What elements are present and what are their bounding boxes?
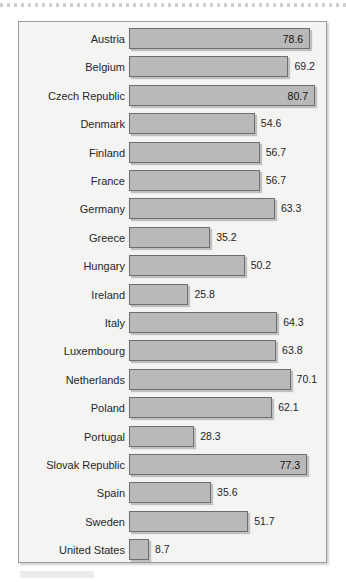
bar-row: Austria78.6 (19, 28, 326, 50)
bar-value-label: 69.2 (288, 56, 314, 77)
bar-chart-plot-area: Austria78.6Belgium69.2Czech Republic80.7… (19, 22, 326, 562)
bar-wrapper: 78.6 (129, 28, 310, 50)
bar (129, 56, 288, 77)
bar-category-label: Luxembourg (19, 340, 125, 362)
bar (129, 482, 211, 503)
bar-wrapper: 56.7 (129, 142, 260, 164)
bar-row: Hungary50.2 (19, 255, 326, 277)
bar-value-label: 56.7 (260, 142, 286, 163)
bar-value-label: 56.7 (260, 170, 286, 191)
bar-category-label: Hungary (19, 255, 125, 277)
chart-panel: Austria78.6Belgium69.2Czech Republic80.7… (18, 21, 327, 563)
bar-category-label: Greece (19, 227, 125, 249)
bar (129, 284, 188, 305)
bar-row: Netherlands70.1 (19, 369, 326, 391)
bar-value-label: 62.1 (272, 397, 298, 418)
bar-row: Germany63.3 (19, 198, 326, 220)
bar-wrapper: 54.6 (129, 113, 255, 135)
bar-row: Finland56.7 (19, 142, 326, 164)
bar-value-label: 8.7 (149, 539, 170, 560)
bar-category-label: Italy (19, 312, 125, 334)
bar (129, 198, 275, 219)
bar (129, 227, 210, 248)
bar-wrapper: 70.1 (129, 369, 291, 391)
bar (129, 539, 149, 560)
bar-wrapper: 64.3 (129, 312, 277, 334)
bar-row: Ireland25.8 (19, 284, 326, 306)
bar-category-label: Germany (19, 198, 125, 220)
bar-value-label: 77.3 (280, 455, 300, 476)
bar-row: Portugal28.3 (19, 426, 326, 448)
bar-value-label: 25.8 (188, 284, 214, 305)
bar-row: Poland62.1 (19, 397, 326, 419)
page-top-dashed-rule (0, 3, 346, 7)
bar-category-label: Slovak Republic (19, 454, 125, 476)
caption-placeholder-block (20, 571, 94, 578)
bar (129, 113, 255, 134)
bar-category-label: Denmark (19, 113, 125, 135)
bar-category-label: United States (19, 539, 125, 561)
bar-wrapper: 62.1 (129, 397, 272, 419)
bar-row: Czech Republic80.7 (19, 85, 326, 107)
bar-wrapper: 35.6 (129, 482, 211, 504)
bar (129, 170, 260, 191)
bar-row: United States8.7 (19, 539, 326, 561)
bar-wrapper: 8.7 (129, 539, 149, 561)
bar (129, 397, 272, 418)
bar-value-label: 35.2 (210, 227, 236, 248)
bar-wrapper: 25.8 (129, 284, 188, 306)
bar-wrapper: 56.7 (129, 170, 260, 192)
bar-value-label: 35.6 (211, 482, 237, 503)
bar-wrapper: 28.3 (129, 426, 194, 448)
bar-row: France56.7 (19, 170, 326, 192)
bar-wrapper: 69.2 (129, 56, 288, 78)
bar: 80.7 (129, 85, 315, 106)
bar-wrapper: 63.8 (129, 340, 276, 362)
bar-value-label: 51.7 (248, 511, 274, 532)
bar-category-label: Austria (19, 28, 125, 50)
bar-wrapper: 35.2 (129, 227, 210, 249)
bar-category-label: Ireland (19, 284, 125, 306)
bar-value-label: 63.3 (275, 198, 301, 219)
bar-category-label: France (19, 170, 125, 192)
bar-category-label: Portugal (19, 426, 125, 448)
bar-value-label: 78.6 (283, 29, 303, 50)
bar-wrapper: 50.2 (129, 255, 245, 277)
bar (129, 142, 260, 163)
bar-row: Denmark54.6 (19, 113, 326, 135)
bar-value-label: 54.6 (255, 113, 281, 134)
bar-value-label: 63.8 (276, 340, 302, 361)
bar (129, 511, 248, 532)
bar-category-label: Netherlands (19, 369, 125, 391)
bar (129, 426, 194, 447)
bar-category-label: Spain (19, 482, 125, 504)
bar-row: Spain35.6 (19, 482, 326, 504)
bar-category-label: Belgium (19, 56, 125, 78)
bar (129, 340, 276, 361)
bar-row: Belgium69.2 (19, 56, 326, 78)
bar-wrapper: 80.7 (129, 85, 315, 107)
bar-row: Italy64.3 (19, 312, 326, 334)
bar-category-label: Sweden (19, 511, 125, 533)
bar-row: Greece35.2 (19, 227, 326, 249)
bar-value-label: 80.7 (288, 86, 308, 107)
bar: 77.3 (129, 454, 307, 475)
bar: 78.6 (129, 28, 310, 49)
bar-category-label: Czech Republic (19, 85, 125, 107)
bar-value-label: 28.3 (194, 426, 220, 447)
bar-value-label: 50.2 (245, 255, 271, 276)
bar-category-label: Poland (19, 397, 125, 419)
bar-wrapper: 51.7 (129, 511, 248, 533)
bar-category-label: Finland (19, 142, 125, 164)
bar-value-label: 64.3 (277, 312, 303, 333)
bar-row: Slovak Republic77.3 (19, 454, 326, 476)
bar-row: Sweden51.7 (19, 511, 326, 533)
bar-value-label: 70.1 (291, 369, 317, 390)
bar (129, 369, 291, 390)
bar-wrapper: 77.3 (129, 454, 307, 476)
figure-page: Austria78.6Belgium69.2Czech Republic80.7… (0, 0, 346, 582)
bar (129, 312, 277, 333)
bar-wrapper: 63.3 (129, 198, 275, 220)
bar-row: Luxembourg63.8 (19, 340, 326, 362)
bar (129, 255, 245, 276)
